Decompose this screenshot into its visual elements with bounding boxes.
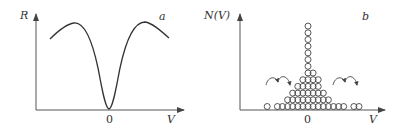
particle-circle [305, 57, 311, 63]
y-axis-label: R [19, 9, 28, 22]
particle-circle [305, 50, 311, 56]
hop-arrow-icon [278, 77, 290, 85]
resistance-curve [50, 22, 169, 109]
panel-tag: b [362, 10, 369, 23]
hop-arrows-left [266, 77, 290, 85]
origin-tick: 0 [304, 113, 311, 126]
particle-circle [305, 63, 311, 69]
particle-circle [305, 37, 311, 43]
x-axis-label: V [167, 113, 176, 126]
particle-circle [305, 23, 311, 29]
panel-a: R V 0 a [19, 9, 184, 126]
x-axis-label: V [369, 113, 378, 126]
distribution-circles [264, 23, 362, 109]
particle-circle [305, 30, 311, 36]
panel-b: N(V) V 0 b [203, 9, 385, 126]
panel-tag: a [159, 10, 166, 23]
hop-arrow-icon [345, 77, 357, 85]
particle-circle [305, 43, 311, 49]
hop-arrow-icon [266, 78, 278, 85]
hop-arrow-icon [333, 78, 345, 85]
figure: R V 0 a N(V) V 0 b [0, 0, 404, 128]
particle-circle [264, 104, 270, 110]
origin-tick: 0 [106, 113, 113, 126]
y-axis-label: N(V) [203, 9, 230, 22]
hop-arrows-right [333, 77, 357, 85]
